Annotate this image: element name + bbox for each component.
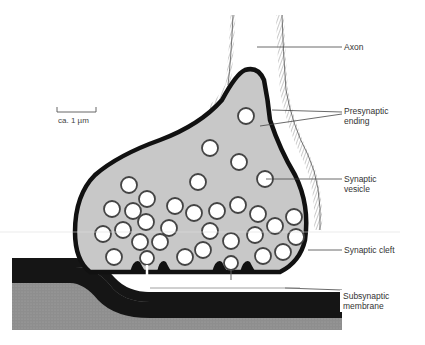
scale-bar <box>57 107 96 112</box>
synaptic-cleft <box>130 282 320 292</box>
label-axon: Axon <box>344 42 363 52</box>
presynaptic-ending <box>75 69 306 272</box>
label-vesicle-line1: Synaptic <box>344 174 377 184</box>
label-subsynaptic-line2: membrane <box>343 301 389 311</box>
label-synaptic-cleft: Synaptic cleft <box>344 245 395 255</box>
label-presynaptic-line2: ending <box>344 116 388 126</box>
label-vesicle-line2: vesicle <box>344 184 377 194</box>
label-presynaptic-ending: Presynaptic ending <box>344 106 388 126</box>
label-synaptic-vesicle: Synaptic vesicle <box>344 174 377 194</box>
scale-bar-label: ca. 1 µm <box>58 116 89 125</box>
label-subsynaptic-line1: Subsynaptic <box>343 291 389 301</box>
label-presynaptic-line1: Presynaptic <box>344 106 388 116</box>
label-subsynaptic-membrane: Subsynaptic membrane <box>340 290 392 312</box>
